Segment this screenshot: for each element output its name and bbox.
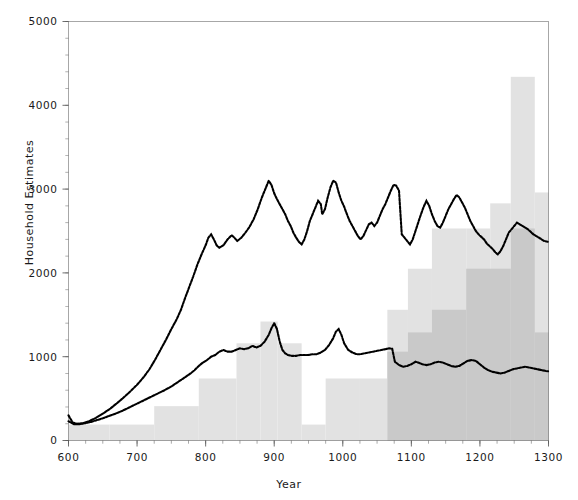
x-tick-label: 1200 [465,451,494,463]
x-tick-label: 1100 [397,451,426,463]
x-tick-label: 1300 [534,451,563,463]
chart-container: 6007008009001000110012001300010002000300… [0,0,578,500]
x-tick-label: 700 [126,451,148,463]
bar-segment [408,332,432,440]
bar-segment [360,378,387,440]
x-tick-label: 900 [263,451,285,463]
y-tick-label: 5000 [28,15,57,27]
y-tick-label: 0 [50,434,57,446]
bar-segment [154,406,199,440]
bar-segment [466,269,511,441]
x-axis-title: Year [0,478,578,491]
bar-segment [326,378,360,440]
x-tick-label: 600 [58,451,80,463]
bar-segment [432,310,466,441]
household-estimates-chart: 6007008009001000110012001300010002000300… [0,0,578,500]
bar-segment [535,332,549,440]
y-axis-title: Household Estimates [23,108,36,298]
bar-segment [69,425,110,441]
x-tick-label: 1000 [328,451,357,463]
bar-segment [278,343,302,440]
bar-segment [302,425,326,441]
bar-segment [199,378,237,440]
bar-segment [511,228,535,440]
y-tick-label: 1000 [28,351,57,363]
x-tick-label: 800 [195,451,217,463]
bar-segment [110,425,155,441]
bar-segment [237,343,261,440]
bar-segment [261,322,278,441]
